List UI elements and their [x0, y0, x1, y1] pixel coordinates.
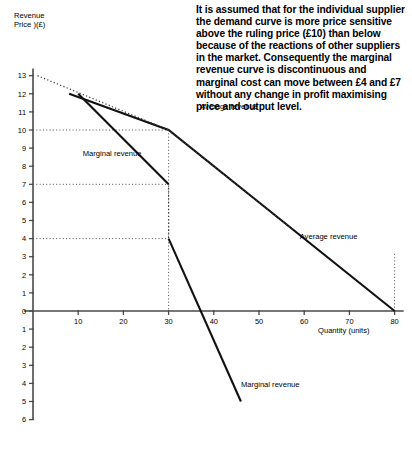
marginal-revenue-upper-label: Marginal revenue	[83, 149, 142, 158]
y-tick-label: 3	[22, 361, 26, 370]
x-tick-label: 80	[390, 317, 398, 326]
x-tick-label: 70	[345, 317, 353, 326]
x-tick-label: 60	[300, 317, 308, 326]
y-tick-label: 2	[22, 343, 26, 352]
y-tick-label: 10	[18, 126, 26, 135]
marginal-revenue-curve	[78, 94, 168, 185]
x-tick-label: 20	[119, 317, 127, 326]
y-tick-label: 4	[22, 234, 26, 243]
y-tick-label: 8	[22, 162, 26, 171]
y-tick-label: 2	[22, 271, 26, 280]
x-tick-label: 40	[210, 317, 218, 326]
ticklabels-group: 1312111098765432101234561020304050607080	[18, 71, 399, 424]
y-tick-label: 6	[22, 198, 26, 207]
y-tick-label: 1	[22, 289, 26, 298]
y-tick-label: 6	[22, 415, 26, 424]
x-tick-label: 50	[255, 317, 263, 326]
average-revenue-upper-label: Average revenue	[200, 102, 258, 111]
y-tick-label: 7	[22, 180, 26, 189]
y-tick-label: 13	[18, 71, 26, 80]
x-tick-label: 30	[164, 317, 172, 326]
y-tick-label: 5	[22, 216, 26, 225]
y-tick-label: 12	[18, 90, 26, 99]
y-tick-label: 3	[22, 252, 26, 261]
axes-group	[24, 68, 404, 419]
kinked-demand-chart: 1312111098765432101234561020304050607080	[0, 0, 412, 458]
y-tick-label: 11	[18, 108, 26, 117]
average-revenue-curve	[69, 94, 394, 311]
x-tick-label: 10	[74, 317, 82, 326]
y-tick-label: 9	[22, 144, 26, 153]
y-tick-label: 0	[22, 307, 26, 316]
figure-canvas: It is assumed that for the individual su…	[0, 0, 412, 458]
y-tick-label: 4	[22, 379, 26, 388]
marginal-revenue-lower-segment-curve	[169, 239, 241, 402]
y-tick-label: 1	[22, 325, 26, 334]
average-revenue-lower-label: Average revenue	[300, 232, 358, 241]
y-tick-label: 5	[22, 397, 26, 406]
marginal-revenue-lower-label: Marginal revenue	[241, 380, 300, 389]
